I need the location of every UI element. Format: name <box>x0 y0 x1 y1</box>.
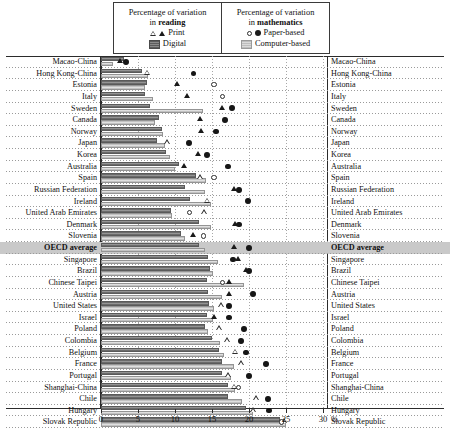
bar-digital <box>101 383 228 387</box>
triangle-filled-icon <box>159 31 165 36</box>
axis-tick <box>101 409 102 413</box>
marker-print <box>181 163 187 168</box>
marker-print <box>225 372 231 377</box>
chart-row: Chinese TaipeiChinese Taipei <box>0 277 450 289</box>
chart-row: BrazilBrazil <box>0 265 450 277</box>
chart-row: SingaporeSingapore <box>0 254 450 266</box>
chart-row: ItalyItaly <box>0 91 450 103</box>
axis-tick <box>323 409 324 413</box>
axis-tick-label: 25 <box>282 414 291 424</box>
chart-row: JapanJapan <box>0 137 450 149</box>
axis-tick <box>138 409 139 413</box>
marker-paper-based <box>225 164 231 170</box>
marker-paper-based <box>236 385 241 390</box>
marker-print <box>238 360 244 365</box>
marker-print <box>216 325 222 330</box>
chart-row: FranceFrance <box>0 358 450 370</box>
bar-digital <box>101 208 171 212</box>
legend-item-computer-based: Computer-based <box>241 39 310 49</box>
marker-paper-based <box>201 233 206 238</box>
legend-item-print: Print <box>150 28 184 38</box>
marker-print <box>253 395 259 400</box>
marker-print <box>204 198 210 203</box>
bar-digital <box>101 278 207 282</box>
marker-paper-based <box>236 187 242 193</box>
marker-paper-based <box>243 350 249 356</box>
marker-paper-based <box>246 373 252 379</box>
chart-rows: Macao-ChinaMacao-ChinaHong Kong-ChinaHon… <box>0 56 450 428</box>
axis-tick-label: 10 <box>171 414 180 424</box>
axis-tick <box>286 409 287 413</box>
bar-digital <box>101 255 208 259</box>
marker-print <box>195 151 201 156</box>
legend-math-title-pre: in <box>248 18 257 27</box>
chart-row: Macao-ChinaMacao-China <box>0 56 450 68</box>
chart-row: BelgiumBelgium <box>0 347 450 359</box>
circle-filled-icon <box>255 30 261 36</box>
marker-print <box>174 81 180 86</box>
axis-tick-label: 15 <box>208 414 217 424</box>
marker-paper-based <box>187 210 192 215</box>
bar-digital <box>101 220 199 224</box>
marker-paper-based <box>238 338 244 344</box>
marker-paper-based <box>226 303 232 309</box>
marker-paper-based <box>186 140 192 146</box>
axis-unit-label: % <box>331 414 338 424</box>
chart-row: NorwayNorway <box>0 126 450 138</box>
marker-paper-based <box>204 152 210 158</box>
legend-label-computer-based: Computer-based <box>255 39 310 49</box>
chart-row: ChileChile <box>0 393 450 405</box>
chart-row: KoreaKorea <box>0 149 450 161</box>
marker-print <box>164 139 170 144</box>
chart-row: DenmarkDenmark <box>0 219 450 231</box>
marker-paper-based <box>241 326 247 332</box>
marker-paper-based <box>191 71 197 77</box>
legend-label-print: Print <box>168 28 184 38</box>
chart-row: SwedenSweden <box>0 103 450 115</box>
bar-digital <box>101 162 179 166</box>
bar-digital <box>101 359 222 363</box>
marker-print <box>144 70 150 75</box>
bar-digital <box>101 80 147 84</box>
chart-row: AustraliaAustralia <box>0 161 450 173</box>
bar-digital <box>101 127 162 131</box>
axis-tick <box>212 409 213 413</box>
circle-open-icon <box>247 31 252 36</box>
marker-paper-based <box>246 245 252 251</box>
chart-row: SloveniaSlovenia <box>0 230 450 242</box>
bar-digital <box>101 313 207 317</box>
chart-page: Percentage of variation in reading Print… <box>0 0 450 434</box>
legend-item-paper-based: Paper-based <box>247 28 305 38</box>
legend-reading: Percentage of variation in reading Print… <box>114 3 221 53</box>
marker-print <box>197 174 203 179</box>
marker-print <box>117 58 123 63</box>
axis-tick-label: 20 <box>245 414 254 424</box>
marker-paper-based <box>263 361 269 367</box>
axis-tick <box>175 409 176 413</box>
bar-digital <box>101 115 159 119</box>
marker-paper-based <box>230 257 236 263</box>
bar-digital <box>101 185 185 189</box>
chart-legend: Percentage of variation in reading Print… <box>113 2 330 54</box>
chart-row: IsraelIsrael <box>0 312 450 324</box>
legend-item-digital: Digital <box>149 39 186 49</box>
bar-digital <box>101 69 142 73</box>
legend-reading-title: Percentage of variation in reading <box>129 8 207 27</box>
axis-tick-label: 5 <box>136 414 140 424</box>
bar-digital <box>101 371 222 375</box>
chart-row: AustriaAustria <box>0 289 450 301</box>
bar-digital <box>101 324 205 328</box>
marker-print <box>231 244 237 249</box>
marker-paper-based <box>211 82 216 87</box>
marker-paper-based <box>211 175 216 180</box>
chart-row: Russian FederationRussian Federation <box>0 184 450 196</box>
marker-print <box>190 232 196 237</box>
bar-digital <box>101 150 166 154</box>
chart-row: PortugalPortugal <box>0 370 450 382</box>
bar-digital <box>101 173 196 177</box>
x-axis: 051015202530% <box>0 409 450 434</box>
legend-math-title-l1: Percentage of variation <box>237 8 315 17</box>
chart-row: Shanghai-ChinaShanghai-China <box>0 382 450 394</box>
axis-tick-label: 0 <box>99 414 103 424</box>
chart-row: ColombiaColombia <box>0 335 450 347</box>
